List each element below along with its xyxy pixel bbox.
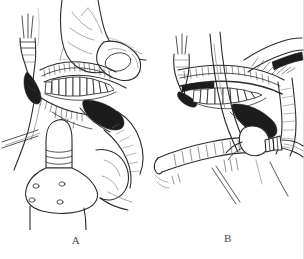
surgical-handpiece: [226, 126, 303, 160]
pointer-lines: [212, 160, 288, 204]
panel-b-artwork: [152, 0, 304, 230]
oral-cavity-shadow-left: [24, 72, 41, 104]
panel-a: [0, 0, 152, 230]
tissue-flap-right: [244, 38, 303, 74]
panel-a-caption: A: [0, 234, 152, 246]
thumb: [97, 41, 141, 80]
oral-cavity-shadow-main: [80, 100, 124, 132]
panel-b-caption: B: [152, 232, 304, 244]
cheek-contour-left: [14, 102, 40, 170]
tooth-row: [45, 77, 114, 96]
figure-root: A B: [0, 0, 304, 259]
mandibular-teeth: [44, 75, 126, 100]
tissue-tags: [172, 158, 238, 184]
panel-b: [152, 0, 304, 230]
lower-retractor: [2, 130, 40, 148]
panel-a-artwork: [0, 0, 152, 230]
